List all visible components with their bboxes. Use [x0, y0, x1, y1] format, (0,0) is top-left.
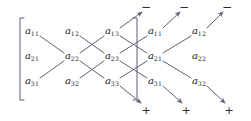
- matrix-entry-a32: a32: [65, 76, 79, 87]
- plus-sign-2: +: [181, 105, 190, 116]
- matrix-entry-a33: a33: [105, 76, 119, 87]
- repeated-entry-a11: a11: [148, 26, 162, 37]
- matrix-left-bracket: [20, 18, 24, 100]
- positive-diagonal-3: [120, 36, 225, 103]
- matrix-entry-a13: a13: [105, 26, 119, 37]
- repeated-entry-a21: a21: [148, 51, 162, 62]
- sarrus-rule-figure: a11 a12 a13 a21 a22 a23 a31 a32 a33 a11 …: [0, 0, 251, 121]
- minus-sign-1: −: [141, 1, 151, 13]
- matrix-entry-a11: a11: [25, 26, 39, 37]
- plus-sign-1: +: [141, 105, 150, 116]
- repeated-entry-a31: a31: [148, 76, 162, 87]
- matrix-entry-a31: a31: [25, 76, 39, 87]
- matrix-entry-a23: a23: [105, 51, 119, 62]
- repeated-entry-a12: a12: [192, 26, 206, 37]
- negative-diagonal-3: [120, 12, 223, 78]
- matrix-entry-a22: a22: [65, 51, 79, 62]
- minus-sign-2: −: [179, 1, 189, 13]
- matrix-entry-a21: a21: [25, 51, 39, 62]
- negative-diagonal-1: [40, 12, 142, 78]
- plus-sign-3: +: [224, 105, 233, 116]
- negative-diagonal-2: [80, 12, 180, 78]
- matrix-right-bracket: [133, 18, 137, 100]
- minus-sign-3: −: [222, 1, 232, 13]
- repeated-entry-a32: a32: [192, 76, 206, 87]
- repeated-entry-a22: a22: [192, 51, 206, 62]
- matrix-entry-a12: a12: [65, 26, 79, 37]
